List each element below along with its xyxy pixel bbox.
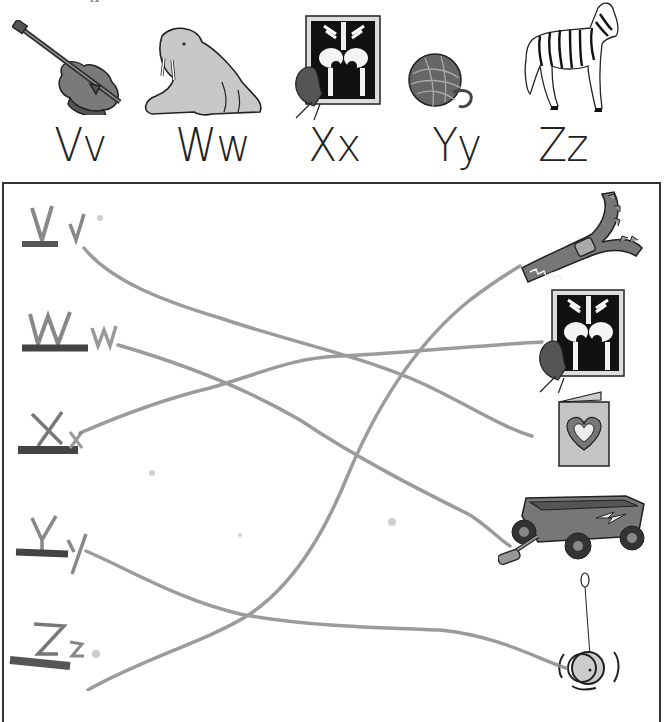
handwritten-letter-vv: [18, 200, 88, 270]
violin-picture: [12, 20, 127, 115]
handwritten-vv-glyph: [18, 200, 88, 270]
x-ray-picture-answer: [528, 288, 628, 393]
handwritten-yy-glyph: [12, 510, 92, 580]
yo-yo-picture: [552, 568, 622, 691]
reference-letter-ww: Ww: [175, 118, 250, 172]
handwritten-ww-glyph: [18, 304, 128, 360]
handwritten-letter-xx: [14, 410, 94, 460]
handwritten-xx-glyph: [14, 410, 94, 460]
x-ray-picture: [284, 14, 384, 122]
handwritten-letter-yy: [12, 510, 92, 580]
zipper-picture: [518, 190, 648, 285]
handwritten-letter-zz: [4, 620, 104, 680]
handwritten-letter-ww: [18, 304, 128, 360]
handwritten-zz-glyph: [4, 620, 104, 680]
walrus-picture: [142, 20, 267, 118]
reference-letter-vv: Vv: [54, 118, 106, 172]
yarn-picture: [405, 48, 477, 112]
reference-letter-zz: Zz: [538, 118, 587, 172]
valentine-card-picture: [555, 390, 615, 470]
reference-letter-yy: Yy: [432, 118, 481, 172]
wagon-picture: [498, 476, 650, 566]
zebra-picture: [512, 0, 624, 115]
reference-letter-xx: Xx: [308, 118, 360, 172]
